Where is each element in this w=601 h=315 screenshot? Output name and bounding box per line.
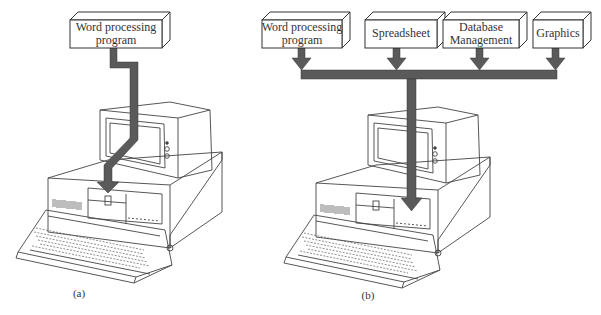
figure-stage: Word processing program (a) Word process…	[0, 0, 601, 315]
program-box-b-graphics-label: Graphics	[536, 26, 580, 40]
program-box-b-spreadsheet-label: Spreadsheet	[372, 26, 431, 40]
program-box-b-database-line1: Database	[459, 20, 503, 34]
computer-illustration-b	[284, 107, 490, 288]
program-box-a-line1: Word processing	[76, 20, 157, 34]
bus-arrows-b	[292, 48, 565, 211]
program-box-b-word-line1: Word processing	[262, 20, 343, 34]
panel-b: Word processing program Spreadsheet Data…	[262, 12, 591, 302]
computer-illustration-a	[16, 102, 222, 283]
program-box-a-line2: program	[96, 33, 137, 47]
caption-b: (b)	[362, 289, 375, 302]
caption-a: (a)	[73, 287, 86, 300]
program-box-b-word-line2: program	[282, 33, 323, 47]
program-box-b-database-line2: Management	[450, 33, 513, 47]
panel-a: Word processing program (a)	[16, 12, 222, 300]
